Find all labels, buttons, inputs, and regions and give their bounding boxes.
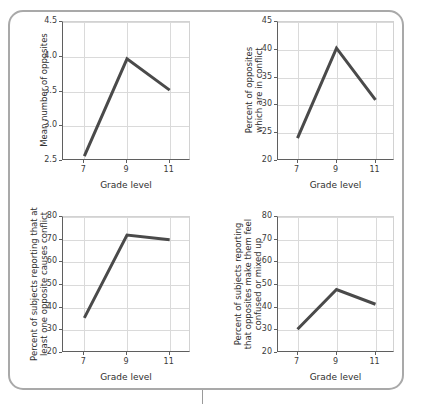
x-tick-mark	[336, 352, 337, 355]
x-tick-mark	[297, 352, 298, 355]
y-tick-mark	[274, 284, 277, 285]
y-tick-mark	[274, 329, 277, 330]
y-tick-mark	[274, 239, 277, 240]
x-tick-label: 7	[294, 357, 299, 366]
y-axis-title: Percent of subjects reportingthat opposi…	[233, 219, 263, 349]
y-tick-label: 60	[262, 257, 272, 265]
y-tick-mark	[274, 261, 277, 262]
y-tick-label: 30	[262, 325, 272, 333]
series-line	[278, 217, 395, 353]
x-tick-mark	[375, 352, 376, 355]
chart-bottom-right: 203040506070807911Grade levelPercent of …	[0, 0, 427, 404]
y-axis-title-line: confused or mixed up	[253, 219, 263, 349]
x-tick-label: 9	[333, 357, 338, 366]
figure-panel: 2.53.03.54.04.57911Grade levelMean numbe…	[0, 0, 427, 404]
y-tick-label: 40	[262, 303, 272, 311]
y-axis-title-line: Percent of subjects reporting	[233, 219, 243, 349]
y-tick-label: 50	[262, 280, 272, 288]
plot-area	[277, 216, 394, 352]
x-tick-label: 11	[369, 357, 379, 366]
y-tick-label: 20	[262, 348, 272, 356]
y-axis-title-line: that opposites make them feel	[243, 219, 253, 349]
x-axis-title: Grade level	[310, 372, 362, 382]
y-tick-mark	[274, 352, 277, 353]
y-tick-mark	[274, 307, 277, 308]
y-tick-label: 70	[262, 235, 272, 243]
series-polyline	[298, 290, 376, 330]
y-tick-label: 80	[262, 212, 272, 220]
y-tick-mark	[274, 216, 277, 217]
